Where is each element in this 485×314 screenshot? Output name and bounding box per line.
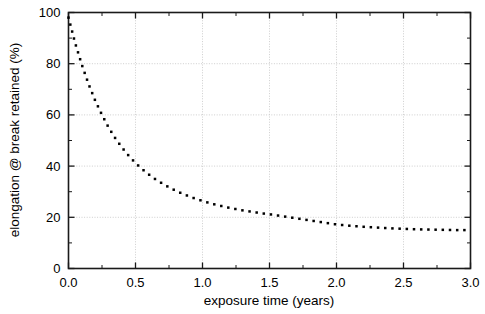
data-point-dot <box>220 205 223 208</box>
data-point-dot <box>362 226 365 229</box>
data-point-dot <box>91 92 94 95</box>
data-point-dot <box>463 229 466 232</box>
data-point-dot <box>270 213 273 216</box>
data-point-dot <box>241 209 244 212</box>
data-point-dot <box>391 227 394 230</box>
data-point-dot <box>263 212 266 215</box>
data-point-dot <box>312 220 315 223</box>
chart-plot-svg: 0.00.51.01.52.02.53.0 020406080100 expos… <box>0 0 485 314</box>
x-tick-label: 2.5 <box>394 275 412 290</box>
data-point-dot <box>327 222 330 225</box>
data-point-dot <box>186 194 189 197</box>
data-point-dot <box>103 118 106 121</box>
data-point-dot <box>132 159 135 162</box>
data-point-dot <box>234 208 237 211</box>
data-point-dot <box>334 223 337 226</box>
data-point-dot <box>179 192 182 195</box>
data-point-dot <box>114 137 117 140</box>
data-point-dot <box>166 185 169 188</box>
data-point-dot <box>248 210 251 213</box>
data-point-dot <box>106 124 109 127</box>
y-tick-label: 0 <box>53 261 60 276</box>
x-tick-label: 3.0 <box>461 275 479 290</box>
y-tick-label: 100 <box>39 5 61 20</box>
data-point-dot <box>213 203 216 206</box>
data-point-dot <box>449 229 452 232</box>
data-point-dot <box>348 224 351 227</box>
data-point-dot <box>199 199 202 202</box>
data-point-dot <box>94 99 97 102</box>
data-point-dot <box>255 211 257 214</box>
y-axis-title: elongation @ break retained (%) <box>7 43 22 238</box>
data-point-dot <box>75 44 78 47</box>
data-point-dot <box>370 226 373 229</box>
data-point-dot <box>192 197 195 200</box>
data-point-dot <box>456 229 459 232</box>
data-point-dot <box>284 215 287 218</box>
data-point-dot <box>406 228 409 231</box>
data-point-dot <box>77 51 80 54</box>
data-point-dot <box>377 226 380 229</box>
x-tick-label: 1.5 <box>260 275 278 290</box>
data-point-dot <box>137 164 140 167</box>
data-point-dot <box>413 228 416 231</box>
data-point-dot <box>118 143 121 146</box>
y-tick-label: 80 <box>46 56 60 71</box>
data-point-dot <box>434 228 437 231</box>
data-point-dot <box>67 16 70 19</box>
data-point-dot <box>88 85 91 88</box>
data-point-dot <box>398 227 401 230</box>
data-point-dot <box>148 173 151 176</box>
x-tick-label: 0.0 <box>59 275 77 290</box>
x-tick-label: 1.0 <box>193 275 211 290</box>
data-point-dot <box>97 105 100 108</box>
data-point-dot <box>206 201 209 204</box>
data-point-dot <box>122 148 125 151</box>
x-tick-label: 2.0 <box>327 275 345 290</box>
data-point-dot <box>427 228 430 231</box>
data-point-dot <box>320 221 323 224</box>
data-point-dot <box>277 214 280 217</box>
data-point-dot <box>71 30 74 33</box>
data-point-dot <box>420 228 423 231</box>
chart-background <box>0 0 485 314</box>
data-point-dot <box>100 112 103 115</box>
data-point-dot <box>160 182 163 185</box>
data-point-dot <box>384 227 387 230</box>
data-point-dot <box>73 37 76 40</box>
data-point-dot <box>81 65 84 68</box>
data-point-dot <box>79 58 82 61</box>
data-point-dot <box>142 169 145 172</box>
data-point-dot <box>442 229 445 232</box>
data-point-dot <box>86 78 89 81</box>
y-tick-label: 20 <box>46 210 60 225</box>
data-point-dot <box>227 206 230 209</box>
data-point-dot <box>172 188 175 191</box>
data-point-dot <box>127 154 130 157</box>
data-point-dot <box>110 131 113 134</box>
chart-figure: 0.00.51.01.52.02.53.0 020406080100 expos… <box>0 0 485 314</box>
data-point-dot <box>355 225 358 228</box>
data-point-dot <box>291 216 294 219</box>
data-point-dot <box>154 178 157 181</box>
y-tick-label: 60 <box>46 107 60 122</box>
data-point-dot <box>298 218 301 221</box>
data-point-dot <box>83 72 86 75</box>
data-point-dot <box>341 224 344 227</box>
y-tick-label: 40 <box>46 159 60 174</box>
x-tick-label: 0.5 <box>126 275 144 290</box>
data-point-dot <box>305 219 308 222</box>
x-axis-title: exposure time (years) <box>204 293 335 308</box>
data-point-dot <box>69 23 72 26</box>
